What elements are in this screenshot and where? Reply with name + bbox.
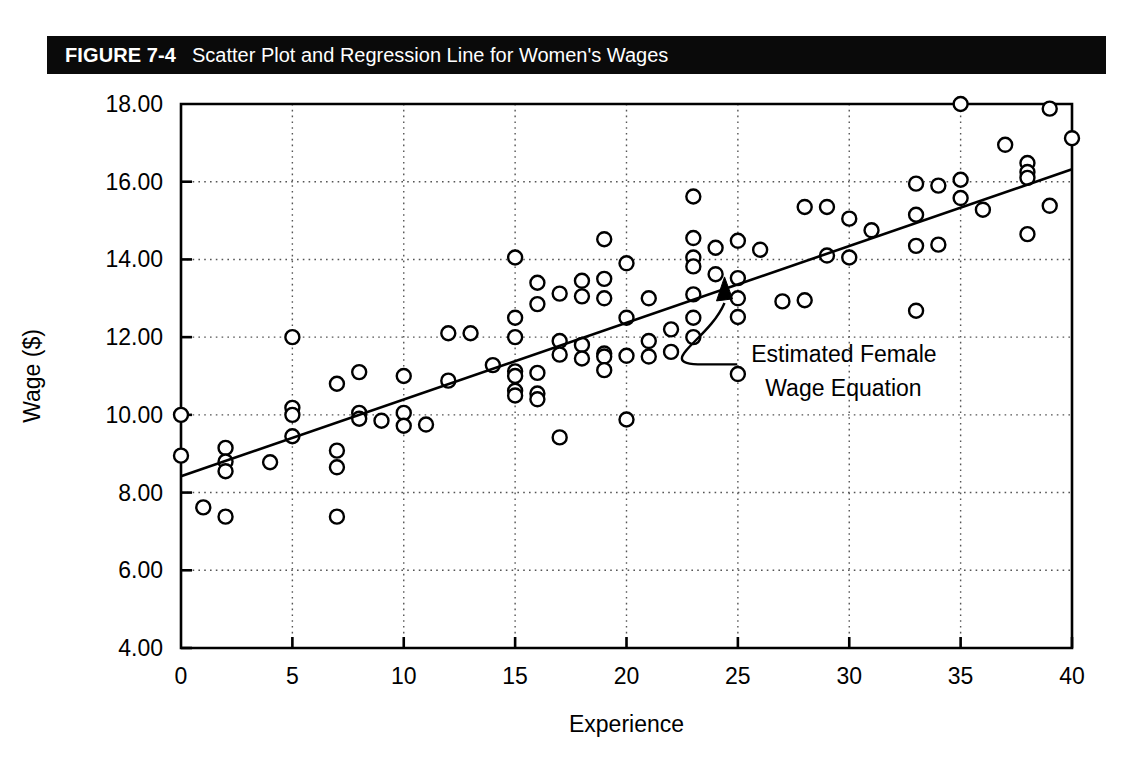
scatter-point [820, 200, 834, 214]
scatter-point [441, 326, 455, 340]
figure-title-bar: FIGURE 7-4 Scatter Plot and Regression L… [47, 36, 1106, 74]
scatter-point [664, 322, 678, 336]
scatter-point [909, 177, 923, 191]
data-points [174, 97, 1079, 524]
scatter-plot-svg: Estimated FemaleWage Equation 4.006.008.… [0, 74, 1141, 765]
y-axis-tick-label: 16.00 [105, 169, 163, 195]
scatter-point [731, 234, 745, 248]
scatter-point [954, 191, 968, 205]
scatter-point [530, 392, 544, 406]
figure-caption-text: Scatter Plot and Regression Line for Wom… [192, 44, 668, 67]
scatter-point [998, 138, 1012, 152]
scatter-point [575, 289, 589, 303]
scatter-point [597, 363, 611, 377]
scatter-point [1065, 131, 1079, 145]
scatter-point [597, 232, 611, 246]
scatter-point [553, 430, 567, 444]
scatter-point [196, 500, 210, 514]
scatter-point [508, 369, 522, 383]
scatter-point [620, 413, 634, 427]
scatter-point [909, 304, 923, 318]
scatter-point [285, 408, 299, 422]
chart-canvas: Estimated FemaleWage Equation 4.006.008.… [0, 74, 1141, 765]
x-axis-tick-label: 5 [286, 663, 299, 689]
scatter-point [553, 287, 567, 301]
y-axis-tick-label: 4.00 [118, 635, 163, 661]
scatter-point [909, 208, 923, 222]
scatter-point [219, 441, 233, 455]
x-axis-title: Experience [569, 711, 684, 737]
scatter-point [709, 241, 723, 255]
scatter-point [931, 238, 945, 252]
scatter-point [352, 365, 366, 379]
y-axis-tick-label: 14.00 [105, 246, 163, 272]
scatter-point [508, 250, 522, 264]
scatter-point [597, 291, 611, 305]
scatter-point [174, 408, 188, 422]
scatter-point [508, 388, 522, 402]
scatter-point [1043, 199, 1057, 213]
y-axis-tick-label: 10.00 [105, 402, 163, 428]
scatter-point [397, 369, 411, 383]
scatter-point [642, 334, 656, 348]
scatter-point [597, 350, 611, 364]
x-axis-tick-label: 35 [948, 663, 974, 689]
scatter-point [775, 294, 789, 308]
scatter-point [731, 367, 745, 381]
scatter-point [686, 231, 700, 245]
x-axis-tick-label: 30 [836, 663, 862, 689]
scatter-point [686, 311, 700, 325]
scatter-point [620, 349, 634, 363]
scatter-point [1043, 102, 1057, 116]
x-axis-tick-label: 40 [1059, 663, 1085, 689]
scatter-point [954, 173, 968, 187]
scatter-point [285, 330, 299, 344]
figure-root: FIGURE 7-4 Scatter Plot and Regression L… [0, 0, 1141, 765]
scatter-point [174, 449, 188, 463]
y-axis-tick-label: 18.00 [105, 91, 163, 117]
x-axis-tick-label: 20 [614, 663, 640, 689]
scatter-point [931, 179, 945, 193]
x-axis-tick-label: 0 [175, 663, 188, 689]
scatter-point [219, 510, 233, 524]
scatter-point [620, 256, 634, 270]
y-axis-tick-label: 8.00 [118, 480, 163, 506]
scatter-point [798, 200, 812, 214]
scatter-point [530, 366, 544, 380]
scatter-point [330, 460, 344, 474]
figure-number-label: FIGURE 7-4 [65, 44, 176, 67]
scatter-point [731, 291, 745, 305]
scatter-point [553, 348, 567, 362]
scatter-point [686, 189, 700, 203]
y-axis-tick-label: 12.00 [105, 324, 163, 350]
scatter-point [530, 297, 544, 311]
scatter-point [798, 293, 812, 307]
scatter-point [842, 250, 856, 264]
annotation-label-line-2: Wage Equation [765, 375, 921, 401]
scatter-point [464, 326, 478, 340]
scatter-point [330, 510, 344, 524]
scatter-point [508, 330, 522, 344]
annotation-label-line-1: Estimated Female [751, 341, 936, 367]
scatter-point [1020, 227, 1034, 241]
scatter-point [753, 243, 767, 257]
scatter-point [976, 203, 990, 217]
scatter-point [330, 377, 344, 391]
scatter-point [575, 274, 589, 288]
scatter-point [508, 311, 522, 325]
scatter-point [642, 291, 656, 305]
scatter-point [842, 212, 856, 226]
x-axis-tick-label: 15 [502, 663, 528, 689]
scatter-point [909, 239, 923, 253]
scatter-point [597, 272, 611, 286]
scatter-point [664, 345, 678, 359]
scatter-point [263, 455, 277, 469]
scatter-point [642, 350, 656, 364]
scatter-point [530, 276, 544, 290]
scatter-point [954, 97, 968, 111]
scatter-point [709, 267, 723, 281]
y-axis-title: Wage ($) [19, 329, 45, 423]
scatter-point [575, 352, 589, 366]
scatter-point [397, 419, 411, 433]
x-axis-tick-label: 10 [391, 663, 417, 689]
